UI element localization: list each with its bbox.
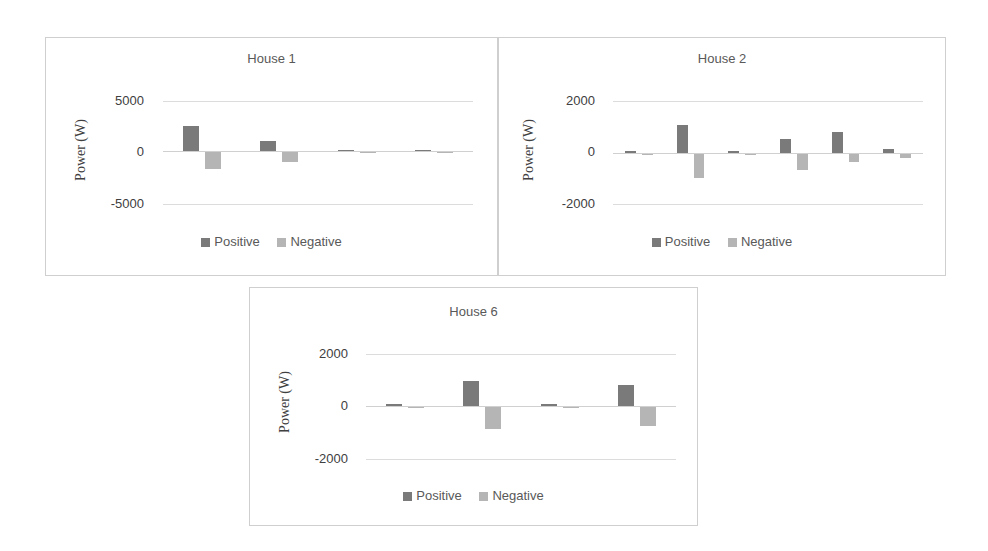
bar-positive	[183, 126, 199, 152]
bar-negative	[797, 154, 808, 170]
bar-positive	[625, 151, 636, 153]
bar-negative	[360, 152, 376, 153]
negative-swatch	[728, 238, 737, 247]
bar-negative	[694, 154, 705, 178]
bar-positive	[728, 151, 739, 153]
negative-swatch	[479, 492, 488, 501]
bar-negative	[437, 152, 453, 153]
bar-negative	[485, 407, 501, 429]
positive-swatch	[652, 238, 661, 247]
bar-positive	[883, 149, 894, 153]
legend-label-positive: Positive	[665, 234, 711, 249]
legend-label-positive: Positive	[214, 234, 260, 249]
chart-panel-house-1: House 1 Power (W) 5000 0 -5000 Positive …	[45, 37, 498, 276]
legend: Positive Negative	[46, 234, 497, 249]
bar-positive	[832, 132, 843, 153]
negative-swatch	[277, 238, 286, 247]
legend-item-negative: Negative	[479, 488, 543, 503]
legend-label-negative: Negative	[492, 488, 543, 503]
legend-item-positive: Positive	[201, 234, 260, 249]
legend: Positive Negative	[499, 234, 945, 249]
chart-panel-house-2: House 2 Power (W) 2000 0 -2000 Positive …	[498, 37, 946, 276]
bar-positive	[677, 125, 688, 153]
bar-negative	[408, 407, 424, 408]
bar-negative	[900, 154, 911, 158]
bar-positive	[618, 385, 634, 406]
bar-negative	[745, 154, 756, 155]
bar-positive	[338, 150, 354, 151]
bar-positive	[386, 404, 402, 406]
legend-label-negative: Negative	[741, 234, 792, 249]
bar-negative	[563, 407, 579, 408]
bar-negative	[642, 154, 653, 155]
positive-swatch	[403, 492, 412, 501]
bar-negative	[849, 154, 860, 162]
legend: Positive Negative	[250, 488, 697, 503]
positive-swatch	[201, 238, 210, 247]
bar-negative	[282, 152, 298, 162]
legend-item-negative: Negative	[277, 234, 341, 249]
legend-item-positive: Positive	[652, 234, 711, 249]
legend-label-negative: Negative	[290, 234, 341, 249]
legend-item-negative: Negative	[728, 234, 792, 249]
bar-positive	[415, 150, 431, 151]
legend-label-positive: Positive	[416, 488, 462, 503]
bar-positive	[541, 404, 557, 406]
bar-negative	[205, 152, 221, 169]
bar-positive	[260, 141, 276, 151]
bar-positive	[463, 381, 479, 406]
chart-panel-house-6: House 6 Power (W) 2000 0 -2000 Positive …	[249, 287, 698, 526]
bar-positive	[780, 139, 791, 153]
legend-item-positive: Positive	[403, 488, 462, 503]
bar-negative	[640, 407, 656, 426]
